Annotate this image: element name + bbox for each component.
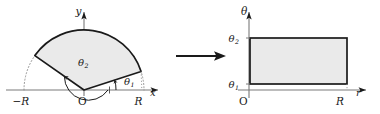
theta2-tick-subscript: 2 bbox=[234, 38, 239, 45]
theta-axis-label: θ bbox=[241, 5, 248, 17]
coordinate-transformation-figure: y x O −R R θ 1 θ 2 bbox=[0, 0, 380, 114]
theta1-label: θ 1 bbox=[124, 76, 135, 89]
theta1-tick-label: θ 1 bbox=[229, 79, 240, 92]
neg-radius-label: −R bbox=[13, 95, 30, 107]
left-origin-label: O bbox=[78, 95, 87, 107]
transformation-arrow bbox=[176, 51, 226, 61]
svg-text:θ: θ bbox=[78, 57, 84, 68]
svg-text:θ: θ bbox=[229, 33, 235, 44]
theta1-subscript: 1 bbox=[131, 81, 135, 88]
right-radius-label: R bbox=[335, 95, 344, 107]
svg-text:θ: θ bbox=[124, 76, 130, 87]
right-origin-label: O bbox=[239, 95, 248, 107]
left-y-axis-label: y bbox=[75, 5, 83, 17]
polar-sector-diagram: y x O −R R θ 1 θ 2 bbox=[6, 5, 158, 107]
left-x-axis-label: x bbox=[150, 87, 156, 98]
rectangle-diagram: θ r O R θ 2 θ 1 bbox=[229, 5, 367, 107]
pos-radius-label: R bbox=[134, 95, 143, 107]
svg-text:θ: θ bbox=[229, 79, 235, 90]
rectangle-region bbox=[250, 38, 347, 84]
r-axis-label: r bbox=[356, 87, 362, 98]
theta2-subscript: 2 bbox=[84, 62, 89, 69]
theta1-tick-subscript: 1 bbox=[235, 84, 239, 91]
theta2-tick-label: θ 2 bbox=[229, 33, 240, 46]
figure-canvas: y x O −R R θ 1 θ 2 bbox=[0, 0, 380, 114]
